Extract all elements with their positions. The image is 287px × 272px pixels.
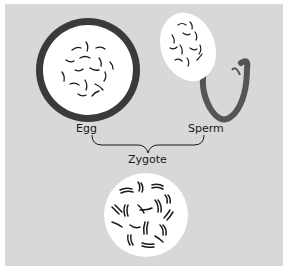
egg-cell xyxy=(36,18,140,122)
zygote-cell xyxy=(104,173,188,257)
sperm-cell xyxy=(151,5,248,120)
combine-brace xyxy=(92,135,204,153)
fertilization-diagram xyxy=(0,0,287,272)
egg-label: Egg xyxy=(76,122,97,135)
sperm-label: Sperm xyxy=(188,122,224,135)
zygote-label: Zygote xyxy=(128,153,167,166)
